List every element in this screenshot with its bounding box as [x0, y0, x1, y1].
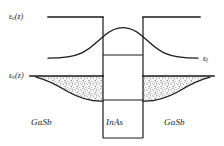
fermi-level-label: εf: [203, 55, 208, 64]
material-label-inas: InAs: [106, 118, 123, 127]
material-label-gasb-right: GaSb: [164, 118, 185, 127]
ef-subscript: f: [206, 57, 208, 63]
conduction-band-label: εc(z): [9, 13, 23, 22]
ev-argument: (z): [15, 71, 23, 80]
valence-band-label: εv(z): [9, 72, 24, 81]
material-label-gasb-left: GaSb: [31, 118, 52, 127]
ec-argument: (z): [15, 12, 23, 21]
